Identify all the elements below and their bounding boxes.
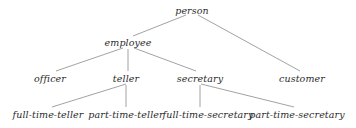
node-full-time-secretary: full-time-secretary xyxy=(163,109,254,120)
node-full-time-teller: full-time-teller xyxy=(13,109,84,120)
edge-employee-to-officer xyxy=(56,48,123,71)
node-teller: teller xyxy=(113,73,139,84)
edge-teller-to-full-time-teller xyxy=(52,84,126,107)
node-employee: employee xyxy=(105,37,152,48)
node-person: person xyxy=(175,5,209,16)
specialization-hierarchy-diagram: personemployeeofficertellersecretarycust… xyxy=(0,0,356,128)
node-customer: customer xyxy=(279,73,325,84)
node-officer: officer xyxy=(34,73,66,84)
edge-secretary-to-part-time-secretary xyxy=(201,84,294,107)
edge-person-to-customer xyxy=(198,15,300,71)
node-part-time-secretary: part-time-secretary xyxy=(249,109,344,120)
edge-person-to-employee xyxy=(133,15,186,36)
node-part-time-teller: part-time-teller xyxy=(88,109,163,120)
node-secretary: secretary xyxy=(177,73,223,84)
edge-employee-to-secretary xyxy=(134,48,196,71)
